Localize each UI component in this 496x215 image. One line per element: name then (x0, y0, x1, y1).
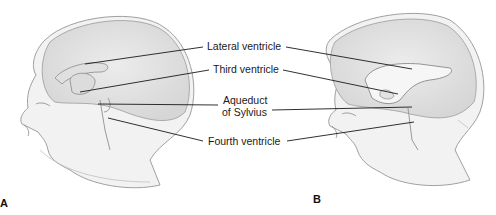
panel-label-a: A (0, 197, 8, 209)
label-aqueduct-line2: of Sylvius (222, 107, 267, 118)
panel-label-b: B (313, 193, 321, 205)
label-lateral-ventricle: Lateral ventricle (207, 41, 281, 52)
ventricle-diagram: Lateral ventricle Third ventricle Aquedu… (0, 0, 496, 215)
head-a-illustration (21, 16, 194, 187)
label-aqueduct-line1: Aqueduct (223, 95, 267, 106)
label-fourth-ventricle: Fourth ventricle (208, 136, 280, 147)
head-b-illustration (326, 13, 484, 185)
label-third-ventricle: Third ventricle (213, 64, 279, 75)
